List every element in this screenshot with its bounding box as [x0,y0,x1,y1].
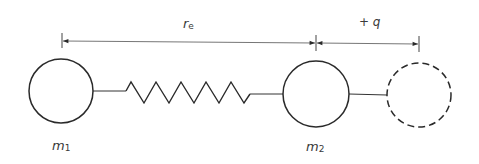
re-dimension [62,33,315,48]
re-subscript: e [188,21,194,31]
m2-symbol: m [306,139,319,154]
q-dimension [316,35,419,52]
spring-icon [126,82,250,103]
mass2-circle [283,61,349,127]
re-arrow-line [63,41,315,43]
diatomic-spring-diagram [0,0,479,164]
displaced-mass-circle [387,63,451,127]
m1-label: m1 [52,139,70,152]
q-label: + q [359,16,381,28]
m2-label: m2 [306,140,324,153]
q-arrow-line [317,43,418,44]
re-label: re [183,17,194,30]
m1-symbol: m [52,138,65,153]
m1-subscript: 1 [65,143,71,153]
bond-m2-displaced [349,94,387,95]
m2-subscript: 2 [319,144,325,154]
mass1-circle [29,59,93,123]
